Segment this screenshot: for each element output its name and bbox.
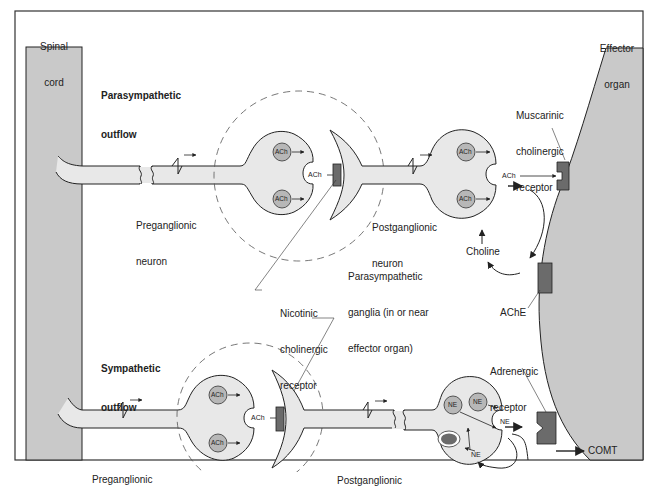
para-postganglionic-label-line1: Postganglionic: [372, 222, 437, 234]
spinal-cord-label: Spinal cord: [30, 17, 78, 101]
effector-organ-label-line1: Effector: [592, 43, 642, 55]
sympathetic-heading-line2: outflow: [101, 401, 160, 414]
para-ganglia-label-line2: ganglia (in or near: [348, 307, 429, 319]
symp-postganglionic-label: Postganglionic: [337, 451, 402, 490]
muscarinic-label-line3: receptor: [516, 182, 564, 194]
para-ganglia-label-line3: effector organ): [348, 343, 429, 355]
para-synapse-ach: ACh: [308, 171, 322, 179]
para-preganglionic-label-line1: Preganglionic: [136, 220, 197, 232]
spinal-cord-label-line1: Spinal: [30, 41, 78, 53]
para-preganglionic-label-line2: neuron: [136, 256, 197, 268]
symp-preganglionic-label: Preganglionic: [92, 450, 153, 490]
para-ganglia-label: Parasympathetic ganglia (in or near effe…: [348, 247, 429, 367]
symp-vesicle-ne-1: NE: [448, 401, 457, 409]
symp-reuptake-ne: NE: [471, 451, 481, 459]
comt-label: COMT: [588, 445, 617, 457]
para-vesicle-3: ACh: [459, 148, 472, 156]
effector-organ-label-line2: organ: [592, 79, 642, 91]
muscarinic-label-line2: cholinergic: [516, 146, 564, 158]
effector-organ-label: Effector organ: [592, 19, 642, 103]
para-vesicle-4: ACh: [459, 195, 472, 203]
choline-label: Choline: [466, 246, 500, 258]
muscarinic-label-line1: Muscarinic: [516, 110, 564, 122]
ache-label: AChE: [500, 307, 526, 319]
para-preganglionic-label: Preganglionic neuron: [136, 196, 197, 280]
parasympathetic-heading: Parasympathetic outflow: [101, 63, 181, 154]
symp-postganglionic-label-line1: Postganglionic: [337, 475, 402, 487]
nicotinic-receptor-label: Nicotinic cholinergic receptor: [280, 284, 328, 404]
adrenergic-label-line1: Adrenergic: [490, 366, 538, 378]
ache-enzyme: [538, 263, 552, 293]
sympathetic-heading: Sympathetic outflow: [101, 336, 160, 427]
adrenergic-label-line2: receptor: [490, 402, 538, 414]
spinal-cord: [26, 47, 82, 460]
nicotinic-label-line1: Nicotinic: [280, 308, 328, 320]
symp-vesicle-ne-2: NE: [473, 398, 482, 406]
muscarinic-receptor-label: Muscarinic cholinergic receptor: [516, 86, 564, 206]
symp-preganglionic-label-line1: Preganglionic: [92, 474, 153, 486]
spinal-cord-label-line2: cord: [30, 77, 78, 89]
para-vesicle-2: ACh: [275, 195, 288, 203]
nicotinic-label-line3: receptor: [280, 380, 328, 392]
adrenergic-receptor-label: Adrenergic receptor: [490, 342, 538, 426]
para-ganglia-label-line1: Parasympathetic: [348, 271, 429, 283]
para-vesicle-1: ACh: [275, 148, 288, 156]
symp-vesicle-2: ACh: [211, 439, 224, 447]
para-terminal-ach: ACh: [502, 172, 516, 180]
symp-synapse-ach: ACh: [251, 414, 265, 422]
nicotinic-label-line2: cholinergic: [280, 344, 328, 356]
sympathetic-heading-line1: Sympathetic: [101, 362, 160, 375]
parasympathetic-heading-line2: outflow: [101, 128, 181, 141]
symp-nicotinic-receptor: [276, 407, 284, 431]
parasympathetic-heading-line1: Parasympathetic: [101, 89, 181, 102]
symp-vesicle-1: ACh: [211, 391, 224, 399]
